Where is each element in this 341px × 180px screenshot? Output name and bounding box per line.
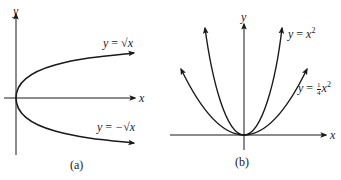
panel-b-y-axis-label: y [241,11,246,23]
label-quarter-x-squared: y = 14x2 [298,82,331,97]
label-neg-sqrt-x: y = −√x [97,121,135,133]
label-sqrt-x: y = √x [103,37,133,49]
caption-a: (a) [70,159,83,171]
caption-b: (b) [235,156,249,168]
panel-a-y-axis-label: y [13,5,18,17]
curve-x-squared [244,28,282,135]
curve-sqrt-x [16,53,134,98]
curve-quarter-x-squared [244,69,307,135]
fraction-one-quarter: 14 [317,82,321,97]
curve-x-squared-left [205,28,244,135]
label-x-squared: y = x2 [288,28,315,40]
panel-b-x-axis-label: x [330,129,335,141]
curve-quarter-x-squared-left [181,69,244,135]
panel-a-x-axis-label: x [139,92,144,104]
